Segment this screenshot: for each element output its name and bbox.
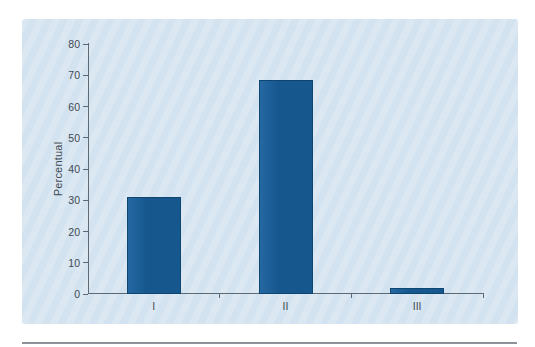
x-tick-label: II	[266, 300, 306, 312]
chart-panel: 01020304050607080IIIIII Percentual	[22, 19, 518, 324]
y-tick-label: 70	[50, 69, 80, 81]
y-tick-mark	[83, 169, 88, 170]
y-tick-mark	[83, 106, 88, 107]
bar-III	[390, 288, 444, 294]
x-tick-mark	[351, 294, 352, 298]
plot-area: 01020304050607080IIIIII	[88, 44, 483, 294]
y-tick-label: 10	[50, 257, 80, 269]
x-tick-label: I	[134, 300, 174, 312]
bar-II	[259, 80, 313, 294]
y-tick-mark	[83, 200, 88, 201]
figure-canvas: 01020304050607080IIIIII Percentual	[0, 0, 535, 347]
y-tick-label: 60	[50, 101, 80, 113]
y-tick-mark	[83, 44, 88, 45]
bar-I	[127, 197, 181, 294]
x-tick-mark	[219, 294, 220, 298]
y-axis	[88, 43, 89, 294]
y-tick-label: 80	[50, 38, 80, 50]
y-tick-mark	[83, 137, 88, 138]
y-tick-label: 20	[50, 226, 80, 238]
x-tick-mark	[483, 294, 484, 298]
y-tick-mark	[83, 75, 88, 76]
y-tick-mark	[83, 231, 88, 232]
y-tick-mark	[83, 294, 88, 295]
y-tick-mark	[83, 262, 88, 263]
x-tick-label: III	[397, 300, 437, 312]
y-tick-label: 0	[50, 288, 80, 300]
bottom-rule-line	[22, 342, 517, 344]
y-axis-title: Percentual	[52, 142, 64, 197]
